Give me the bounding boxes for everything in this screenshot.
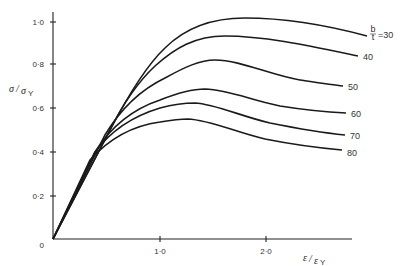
stress-strain-chart: 0·2 0·4 0·6 0·8 1·0 0 1·0 2·0 σ / σ Y ε … (0, 0, 402, 266)
curve-label-30: b t =30 (370, 24, 393, 42)
svg-text:Y: Y (28, 89, 34, 98)
y-tick-label: 0·2 (32, 192, 44, 201)
x-tick-labels: 1·0 2·0 (154, 247, 272, 256)
x-tick-label: 2·0 (260, 247, 272, 256)
svg-text:/: / (308, 253, 313, 264)
curve-bt-70 (53, 103, 345, 239)
y-tick-labels: 0·2 0·4 0·6 0·8 1·0 0 (32, 18, 44, 250)
svg-text:=30: =30 (378, 30, 393, 40)
svg-text:/: / (15, 83, 20, 94)
y-axis-label: σ / σ Y (9, 83, 34, 98)
curve-label-70: 70 (350, 131, 360, 141)
curve-bt-80 (53, 119, 342, 239)
curve-bt-30 (53, 18, 367, 239)
curve-bt-60 (53, 89, 346, 239)
x-tick-label: 1·0 (154, 247, 166, 256)
svg-text:σ: σ (21, 85, 27, 96)
curve-label-60: 60 (351, 109, 361, 119)
curve-label-50: 50 (348, 82, 358, 92)
svg-text:σ: σ (9, 83, 15, 94)
y-tick-label: 0·4 (32, 148, 44, 157)
svg-text:ε: ε (303, 252, 307, 263)
curves (53, 18, 367, 239)
curve-label-80: 80 (347, 148, 357, 158)
curve-label-40: 40 (363, 52, 373, 62)
svg-text:ε: ε (314, 255, 318, 266)
origin-label: 0 (40, 241, 45, 250)
curve-bt-40 (53, 36, 358, 239)
x-axis-label: ε / ε Y (303, 252, 326, 266)
curve-labels: b t =30 40 50 60 70 80 (347, 24, 393, 158)
y-tick-label: 0·6 (32, 104, 44, 113)
y-tick-label: 1·0 (32, 18, 44, 27)
y-tick-label: 0·8 (32, 60, 44, 69)
svg-text:Y: Y (320, 258, 326, 266)
